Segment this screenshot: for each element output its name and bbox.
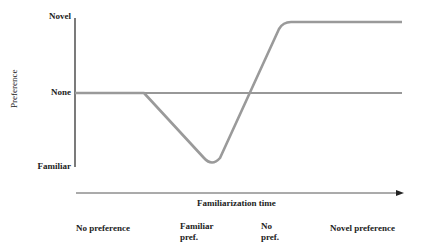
x-axis-label: Familiarization time (197, 198, 276, 208)
preference-curve (75, 22, 402, 163)
chart: Preference Novel None Familiar Familiari… (0, 0, 424, 250)
plot-area (0, 0, 424, 250)
y-tick-novel: Novel (11, 11, 71, 21)
phase-novel-preference: Novel preference (330, 223, 395, 233)
phase-familiar-line1: Familiar (180, 221, 214, 232)
phase-no-pref-line2: pref. (261, 232, 279, 243)
y-tick-none: None (11, 87, 71, 97)
phase-familiar-preference: Familiar pref. (180, 221, 214, 243)
phase-no-preference: No preference (76, 223, 130, 233)
phase-no-pref: No pref. (261, 221, 279, 243)
phase-no-pref-line1: No (261, 221, 279, 232)
arrowhead-icon (396, 190, 404, 196)
y-tick-familiar: Familiar (11, 161, 71, 171)
phase-familiar-line2: pref. (180, 232, 214, 243)
